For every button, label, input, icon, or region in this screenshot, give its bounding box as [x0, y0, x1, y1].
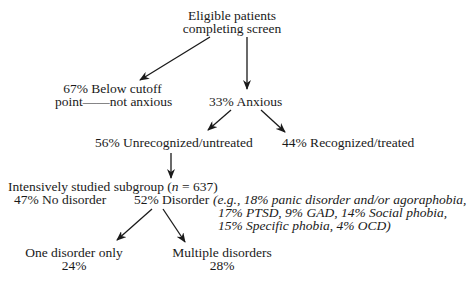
arrow-anxious-to-recognized — [261, 110, 285, 132]
below-cutoff-line2: point——not anxious — [55, 95, 170, 108]
node-unrecognized: 56% Unrecognized/untreated — [95, 136, 253, 149]
arrow-disorder-to-one — [117, 209, 152, 240]
root-line2: completing screen — [150, 22, 314, 35]
arrow-anxious-to-unrecognized — [208, 110, 231, 130]
one-disorder-line2: 24% — [20, 259, 128, 272]
arrow-root-to-below-cutoff — [140, 37, 210, 80]
multiple-disorders-line2: 28% — [166, 259, 278, 272]
node-disorder: 52% Disorder — [134, 193, 209, 206]
node-anxious: 33% Anxious — [209, 95, 282, 108]
node-recognized: 44% Recognized/treated — [282, 136, 414, 149]
node-no-disorder: 47% No disorder — [14, 193, 106, 206]
disorder-examples-line3: 15% Specific phobia, 4% OCD) — [218, 219, 391, 232]
arrow-disorder-to-multiple — [163, 209, 185, 242]
